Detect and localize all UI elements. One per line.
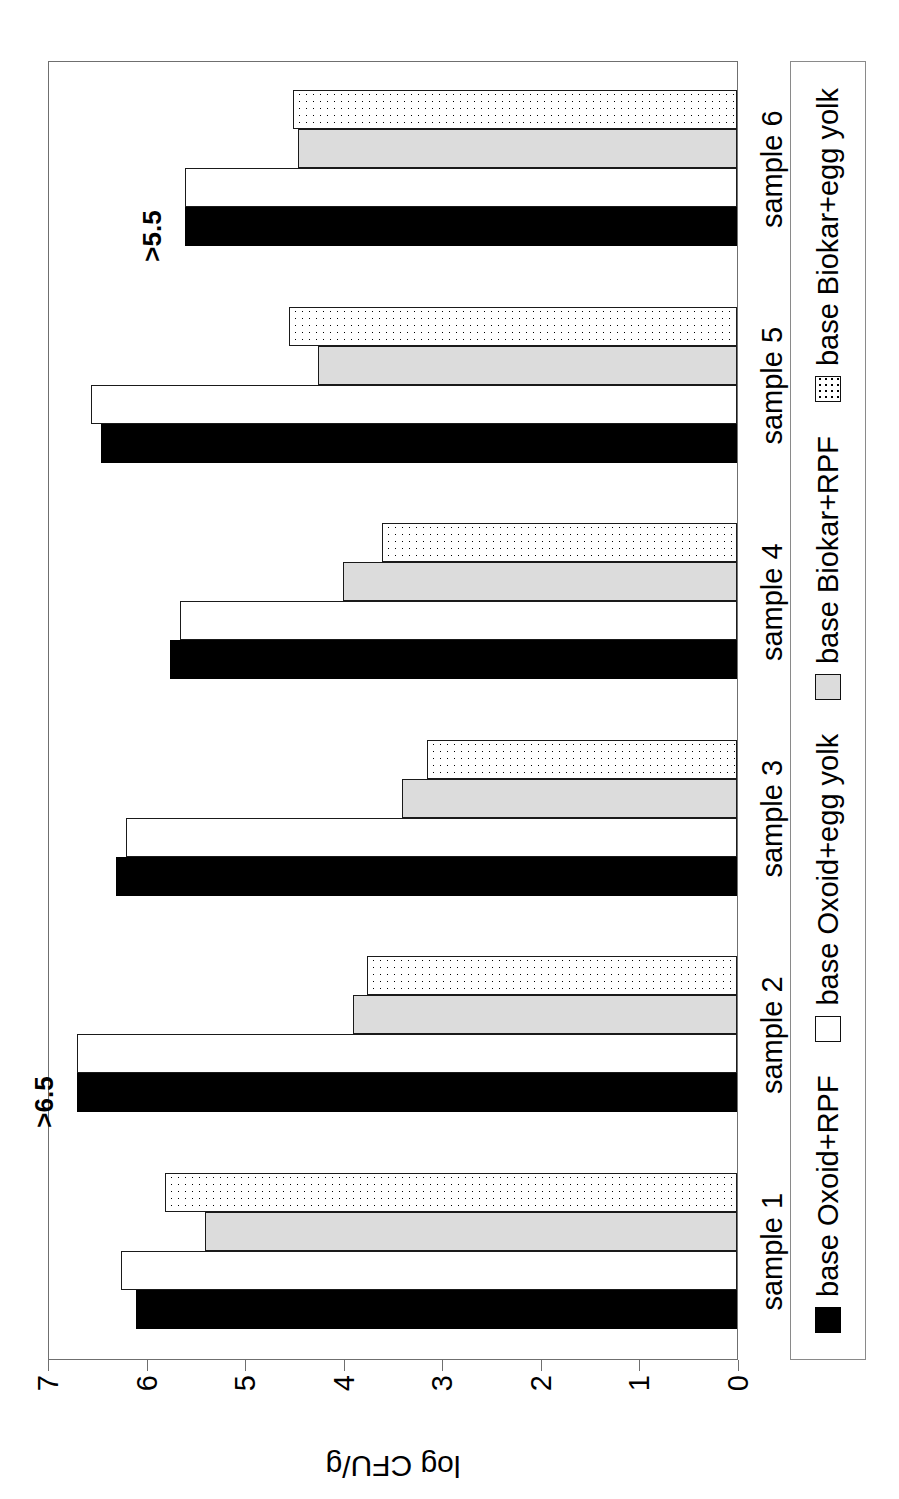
- legend-label: base Oxoid+egg yolk: [812, 734, 845, 1006]
- bar-chart: log CFU/g 01234567 sample 1sample 2sampl…: [0, 0, 899, 1499]
- y-axis-tick-mark: [639, 1360, 640, 1371]
- legend-swatch-icon: [815, 376, 841, 402]
- legend-swatch-icon: [815, 674, 841, 700]
- bar: [289, 307, 738, 346]
- bar: [101, 424, 737, 463]
- bar: [367, 956, 737, 995]
- bar: [343, 562, 737, 601]
- y-axis-tick-mark: [442, 1360, 443, 1371]
- chart-legend: base Oxoid+RPFbase Oxoid+egg yolkbase Bi…: [790, 61, 866, 1360]
- y-axis-title-text: log CFU/g: [325, 1449, 460, 1483]
- bar: [165, 1173, 737, 1212]
- bar: [185, 207, 737, 246]
- y-axis-title: log CFU/g: [48, 1451, 738, 1481]
- category-label: sample 3: [756, 739, 789, 899]
- bar: [91, 385, 737, 424]
- legend-swatch-icon: [815, 1307, 841, 1333]
- bar-value-annotation: >6.5: [28, 1076, 59, 1127]
- bar: [77, 1073, 737, 1112]
- bar: [427, 740, 738, 779]
- y-axis-tick-label: 1: [623, 1375, 656, 1449]
- category-label: sample 6: [756, 89, 789, 249]
- bar-value-annotation: >5.5: [137, 210, 168, 261]
- category-label: sample 5: [756, 306, 789, 466]
- bar: [180, 601, 737, 640]
- legend-item[interactable]: base Biokar+egg yolk: [812, 88, 845, 402]
- legend-label: base Oxoid+RPF: [812, 1075, 845, 1297]
- y-axis-tick-label: 2: [524, 1375, 557, 1449]
- bar: [121, 1251, 737, 1290]
- bar: [353, 995, 737, 1034]
- legend-swatch-icon: [815, 1016, 841, 1042]
- y-axis-tick-mark: [541, 1360, 542, 1371]
- bar: [126, 818, 737, 857]
- legend-item[interactable]: base Biokar+RPF: [812, 436, 845, 700]
- bar: [185, 168, 737, 207]
- bar: [298, 129, 737, 168]
- bar: [136, 1290, 737, 1329]
- legend-label: base Biokar+RPF: [812, 436, 845, 664]
- bar: [318, 346, 737, 385]
- y-axis-tick-mark: [147, 1360, 148, 1371]
- y-axis-tick-label: 7: [32, 1375, 65, 1449]
- y-axis-tick-label: 6: [130, 1375, 163, 1449]
- legend-item[interactable]: base Oxoid+RPF: [812, 1075, 845, 1333]
- y-axis-tick-label: 5: [229, 1375, 262, 1449]
- bar: [293, 90, 737, 129]
- bar: [382, 523, 737, 562]
- y-axis-tick-mark: [344, 1360, 345, 1371]
- legend-label: base Biokar+egg yolk: [812, 88, 845, 366]
- y-axis-tick-label: 3: [426, 1375, 459, 1449]
- y-axis-tick-mark: [48, 1360, 49, 1371]
- legend-item[interactable]: base Oxoid+egg yolk: [812, 734, 845, 1042]
- category-label: sample 4: [756, 522, 789, 682]
- category-label: sample 1: [756, 1172, 789, 1332]
- bar: [205, 1212, 737, 1251]
- bar: [170, 640, 737, 679]
- bar: [402, 779, 737, 818]
- y-axis-tick-mark: [245, 1360, 246, 1371]
- y-axis-tick-mark: [738, 1360, 739, 1371]
- y-axis-tick-label: 4: [327, 1375, 360, 1449]
- bar: [116, 857, 737, 896]
- y-axis-tick-label: 0: [722, 1375, 755, 1449]
- category-label: sample 2: [756, 955, 789, 1115]
- rotated-chart-stage: log CFU/g 01234567 sample 1sample 2sampl…: [0, 0, 899, 1499]
- bar: [77, 1034, 737, 1073]
